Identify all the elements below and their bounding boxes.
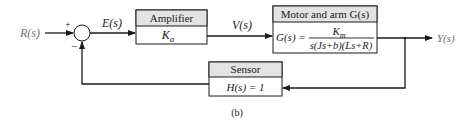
plus-sign: + <box>65 19 71 30</box>
motor-denominator: s(Js+b)(Ls+R) <box>310 40 373 52</box>
sensor-block: Sensor H(s) = 1 <box>209 62 282 96</box>
amplifier-title: Amplifier <box>150 12 194 24</box>
motor-title: Motor and arm G(s) <box>281 8 370 21</box>
amplifier-block: Amplifier Ka <box>136 10 207 44</box>
summing-junction <box>74 25 90 41</box>
output-label: Y(s) <box>437 32 455 45</box>
minus-sign: − <box>71 40 77 52</box>
voltage-signal-label: V(s) <box>232 18 252 32</box>
motor-lhs: G(s) = <box>276 31 306 44</box>
block-diagram: R(s) + − E(s) Amplifier Ka V(s) Motor an… <box>0 0 474 122</box>
error-signal-label: E(s) <box>101 16 122 30</box>
sensor-title: Sensor <box>231 63 261 75</box>
sensor-expression: H(s) = 1 <box>226 81 265 94</box>
motor-block: Motor and arm G(s) G(s) = Km s(Js+b)(Ls+… <box>273 6 377 53</box>
input-label: R(s) <box>19 26 40 40</box>
figure-caption: (b) <box>231 107 243 119</box>
feedback-path-out <box>82 42 209 84</box>
